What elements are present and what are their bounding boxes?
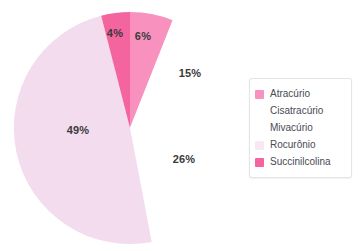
- legend-item[interactable]: Rocurônio: [255, 137, 345, 153]
- pie-slice-value-label: 4%: [107, 28, 123, 39]
- pie-slice-value-label: 15%: [179, 68, 202, 79]
- legend-item-label: Mivacúrio: [270, 123, 313, 133]
- legend-item-label: Succinilcolina: [270, 157, 331, 167]
- pie-slice-value-label: 26%: [173, 154, 196, 165]
- pie-chart: 6%15%26%49%4% AtracúrioCisatracúrioMivac…: [0, 0, 358, 251]
- legend-swatch-icon: [255, 107, 264, 116]
- pie-slice-value-label: 6%: [135, 31, 151, 42]
- legend-swatch-icon: [255, 141, 264, 150]
- chart-legend: AtracúrioCisatracúrioMivacúrioRocurônioS…: [249, 78, 352, 178]
- legend-item[interactable]: Cisatracúrio: [255, 103, 345, 119]
- legend-item-label: Cisatracúrio: [270, 106, 323, 116]
- legend-swatch-icon: [255, 158, 264, 167]
- legend-item[interactable]: Succinilcolina: [255, 154, 345, 170]
- legend-item[interactable]: Mivacúrio: [255, 120, 345, 136]
- pie-slice-value-label: 49%: [67, 125, 90, 136]
- legend-swatch-icon: [255, 90, 264, 99]
- legend-item[interactable]: Atracúrio: [255, 86, 345, 102]
- legend-item-label: Atracúrio: [270, 89, 310, 99]
- pie-slice-group: [14, 12, 246, 244]
- legend-item-label: Rocurônio: [270, 140, 316, 150]
- legend-swatch-icon: [255, 124, 264, 133]
